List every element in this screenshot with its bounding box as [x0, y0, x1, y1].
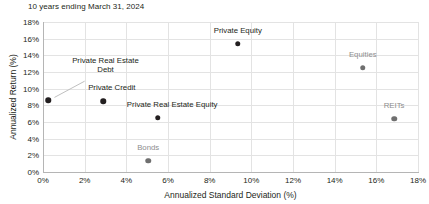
data-point[interactable] — [391, 116, 397, 122]
plot-area — [43, 22, 418, 172]
y-axis-tick-label: 12% — [23, 68, 39, 77]
x-axis-tick-label: 2% — [79, 176, 91, 185]
gridline-horizontal — [43, 105, 418, 106]
gridline-vertical — [376, 22, 377, 172]
x-axis-line — [43, 172, 419, 173]
x-axis-tick-label: 14% — [327, 176, 343, 185]
gridline-vertical — [85, 22, 86, 172]
x-axis-tick-label: 0% — [37, 176, 49, 185]
data-point[interactable] — [235, 41, 241, 47]
x-axis-tick-label: 18% — [410, 176, 426, 185]
chart-title: 10 years ending March 31, 2024 — [28, 2, 144, 11]
x-axis-tick-label: 16% — [368, 176, 384, 185]
x-axis-tick-label: 4% — [121, 176, 133, 185]
gridline-horizontal — [43, 139, 418, 140]
x-axis-tick-label: 6% — [162, 176, 174, 185]
x-axis-title: Annualized Standard Deviation (%) — [43, 190, 418, 200]
y-axis-tick-label: 8% — [27, 101, 39, 110]
gridline-vertical — [251, 22, 252, 172]
gridline-vertical — [126, 22, 127, 172]
x-axis-tick-label: 10% — [243, 176, 259, 185]
y-axis-tick-label: 10% — [23, 84, 39, 93]
gridline-horizontal — [43, 122, 418, 123]
data-point[interactable] — [360, 65, 366, 71]
gridline-horizontal — [43, 155, 418, 156]
y-axis-tick-label: 14% — [23, 51, 39, 60]
scatter-chart: 10 years ending March 31, 2024 0%2%4%6%8… — [0, 0, 429, 204]
gridline-vertical — [168, 22, 169, 172]
gridline-horizontal — [43, 22, 418, 23]
data-point[interactable] — [101, 98, 107, 104]
y-axis-tick-label: 16% — [23, 34, 39, 43]
data-point-label: Equities — [349, 50, 377, 59]
data-point[interactable] — [145, 158, 151, 164]
y-axis-line — [43, 22, 44, 173]
y-axis-tick-label: 2% — [27, 151, 39, 160]
data-point-label: Private Equity — [214, 26, 262, 35]
y-axis-tick-label: 6% — [27, 118, 39, 127]
gridline-vertical — [418, 22, 419, 172]
y-axis-tick-label: 4% — [27, 134, 39, 143]
data-point-label: REITs — [384, 101, 405, 110]
gridline-horizontal — [43, 39, 418, 40]
gridline-vertical — [293, 22, 294, 172]
data-point-label: Private Credit — [88, 83, 135, 92]
data-point-label: Bonds — [137, 143, 159, 152]
x-axis-tick-label: 12% — [285, 176, 301, 185]
data-point-label: Private Real EstateDebt — [72, 56, 139, 75]
y-axis-title: Annualized Return (%) — [8, 32, 18, 162]
data-point-label: Private Real Estate Equity — [127, 100, 218, 109]
data-point[interactable] — [155, 115, 161, 121]
y-axis-tick-label: 18% — [23, 18, 39, 27]
gridline-vertical — [335, 22, 336, 172]
data-point[interactable] — [45, 98, 51, 104]
y-axis-tick-labels: 0%2%4%6%8%10%12%14%16%18% — [0, 0, 39, 204]
gridline-vertical — [210, 22, 211, 172]
x-axis-tick-label: 8% — [204, 176, 216, 185]
